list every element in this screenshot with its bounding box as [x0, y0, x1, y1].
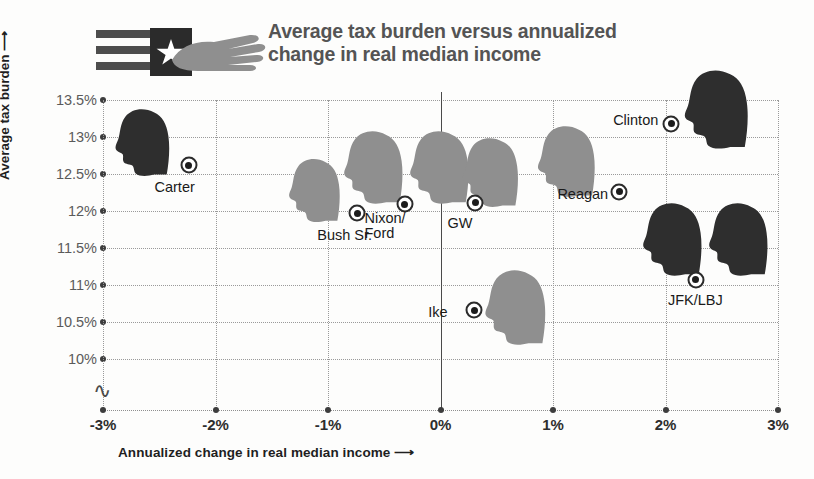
gridline-vertical: [778, 100, 779, 410]
president-silhouette-icon: [676, 69, 758, 151]
y-axis-tick-label: 11.5%: [11, 240, 97, 256]
x-axis-tick-dot: [663, 407, 669, 413]
president-silhouette-icon: [106, 108, 180, 178]
x-axis-tick-label: -1%: [288, 416, 368, 433]
president-silhouette-icon: [338, 130, 410, 206]
data-point-silhouette-group: [676, 69, 758, 151]
data-point-label: Nixon/ Ford: [365, 212, 406, 242]
data-point-marker[interactable]: [349, 205, 366, 222]
y-axis-tick-label: 11%: [11, 277, 97, 293]
plot-area: 13.5%13%12.5%12%11.5%11%10.5%10%-3%-2%-1…: [103, 100, 778, 410]
gridline-vertical: [216, 100, 217, 410]
page-title: Average tax burden versus annualized cha…: [268, 20, 688, 66]
chart-root: Average tax burden versus annualized cha…: [0, 0, 814, 479]
y-axis-tick-label: 12%: [11, 203, 97, 219]
x-axis-tick-dot: [775, 407, 781, 413]
x-axis-tick-label: 3%: [738, 416, 814, 433]
y-axis-tick-label: 13%: [11, 129, 97, 145]
data-point-marker[interactable]: [611, 183, 628, 200]
y-axis-tick-label: 10%: [11, 351, 97, 367]
x-axis-tick-dot: [213, 407, 219, 413]
gridline-vertical: [328, 100, 329, 410]
data-point-silhouette-group: [338, 130, 476, 206]
x-axis-tick-label: 1%: [513, 416, 593, 433]
data-point-label: Clinton: [613, 112, 658, 127]
data-point-marker[interactable]: [180, 157, 197, 174]
x-axis-title: Annualized change in real median income …: [118, 444, 414, 460]
data-point-marker[interactable]: [467, 194, 484, 211]
data-point-label: Ike: [428, 305, 447, 320]
flag-and-hand-logo: [96, 24, 266, 76]
y-axis-tick-label: 13.5%: [11, 92, 97, 108]
data-point-label: Reagan: [557, 186, 608, 201]
x-axis-tick-dot: [438, 407, 444, 413]
president-silhouette-icon: [637, 202, 709, 278]
data-point-label: JFK/LBJ: [668, 292, 723, 307]
x-axis-tick-dot: [325, 407, 331, 413]
gridline-vertical: [103, 100, 104, 410]
y-axis-tick-label: 10.5%: [11, 314, 97, 330]
data-point-marker[interactable]: [466, 302, 483, 319]
president-silhouette-icon: [480, 269, 552, 347]
data-point-silhouette-group: [480, 269, 552, 347]
x-axis-tick-label: 0%: [401, 416, 481, 433]
x-axis-tick-label: -2%: [176, 416, 256, 433]
x-axis-tick-dot: [550, 407, 556, 413]
data-point-marker[interactable]: [663, 115, 680, 132]
x-axis-tick-label: 2%: [626, 416, 706, 433]
y-axis-title: Average tax burden ⟶: [0, 31, 12, 180]
data-point-marker[interactable]: [687, 271, 704, 288]
data-point-silhouette-group: [637, 202, 775, 278]
y-axis-break-icon: ∿: [93, 378, 115, 412]
x-axis-tick-label: -3%: [63, 416, 143, 433]
data-point-label: GW: [447, 215, 472, 230]
president-silhouette-icon: [703, 202, 775, 278]
data-point-silhouette-group: [106, 108, 180, 178]
y-axis-tick-label: 12.5%: [11, 166, 97, 182]
data-point-label: Carter: [155, 180, 195, 195]
hand-icon: [170, 30, 266, 72]
